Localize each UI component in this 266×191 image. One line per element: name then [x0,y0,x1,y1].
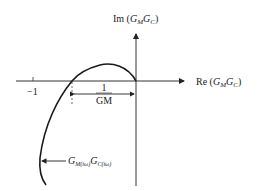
minus-one-tick: −1 [27,77,38,97]
real-axis-label: Re (GMGC) [196,76,241,89]
curve-label: GM(iω)GC(iω) [42,155,111,168]
gain-margin-dimension: 1 GM [74,82,134,106]
svg-text:GM(iω)GC(iω): GM(iω)GC(iω) [68,155,111,168]
gm-numerator: 1 [102,82,107,93]
nyquist-diagram: −1 1 GM Im (GMGC) Re (GMGC) GM(iω)GC(iω) [0,0,266,191]
imag-axis-label: Im (GMGC) [113,13,158,26]
minus-one-label: −1 [27,86,38,97]
gm-denominator: GM [96,95,112,106]
